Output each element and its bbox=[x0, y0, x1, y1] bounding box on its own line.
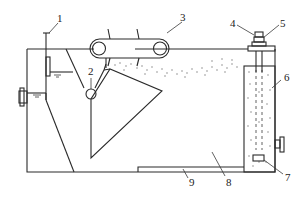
tank-outline bbox=[27, 49, 275, 172]
filter-media-dots bbox=[247, 71, 270, 166]
callout-7: 7 bbox=[285, 171, 291, 183]
outlet-pipe bbox=[275, 137, 284, 152]
callout-1: 1 bbox=[57, 12, 63, 24]
belt-scraper bbox=[90, 22, 182, 68]
inclined-baffle bbox=[46, 100, 74, 172]
froth-particles bbox=[114, 58, 237, 77]
upper-baffle bbox=[66, 49, 84, 88]
level-gauge-rod bbox=[43, 23, 58, 100]
inlet-pipe bbox=[19, 88, 27, 106]
left-water-level bbox=[27, 93, 46, 100]
callout-4: 4 bbox=[230, 17, 236, 29]
callout-2: 2 bbox=[88, 65, 94, 77]
callout-3: 3 bbox=[180, 11, 186, 23]
callout-6: 6 bbox=[284, 71, 290, 83]
triangular-plate bbox=[91, 69, 162, 158]
callout-9: 9 bbox=[189, 176, 195, 188]
aerator-element bbox=[253, 155, 283, 174]
middle-water-level bbox=[50, 72, 73, 77]
callout-5: 5 bbox=[280, 17, 286, 29]
diagram-canvas: 1 2 3 4 5 6 7 8 9 bbox=[0, 0, 305, 197]
callout-8: 8 bbox=[226, 176, 232, 188]
